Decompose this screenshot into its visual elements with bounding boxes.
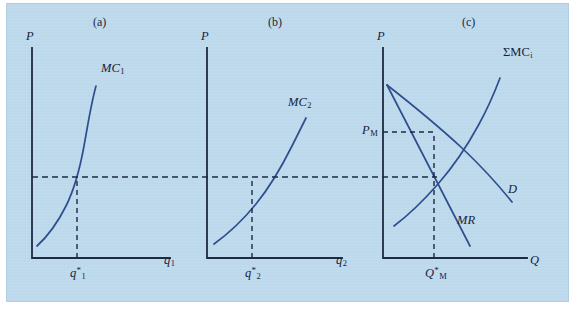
curve-mc2: [214, 118, 306, 244]
panel-c-pm-sub: M: [370, 128, 378, 138]
panel-b-x-axis-label-text: q: [336, 253, 342, 267]
panel-b-x-axis-label: q2: [336, 254, 347, 268]
panel-a-axis-lines: [32, 48, 170, 258]
panel-b-y-axis-label: P: [201, 30, 209, 43]
panel-c-qstar-label: Q*M: [425, 266, 447, 281]
panel-b-qstar-sup: *: [252, 265, 257, 275]
panel-a-y-axis-label: P: [26, 30, 34, 43]
panel-a-qstar-text: q: [70, 266, 76, 280]
panel-c-pm-label: PM: [362, 124, 378, 138]
panel-a-qstar-sub: 1: [82, 271, 86, 281]
panel-a-x-axis-label-text: q: [164, 253, 170, 267]
panel-c-qstar-sub: M: [439, 271, 447, 281]
panel-c-curve-label-text: ΣMC: [503, 45, 530, 59]
panel-c-marginal-revenue-label: MR: [457, 214, 475, 227]
panel-b-curve-label-text: MC: [288, 95, 307, 109]
panel-c-axes: [383, 48, 527, 258]
panel-a-curve-label-text: MC: [101, 61, 120, 75]
panel-b-axis-lines: [207, 48, 342, 258]
panel-c-x-axis-label-text: Q: [530, 253, 539, 267]
panel-c-demand-label: D: [508, 183, 517, 196]
panel-tag-c: (c): [462, 15, 475, 30]
panel-c-y-axis-label: P: [377, 30, 385, 43]
panel-a-x-axis-label: q1: [164, 254, 175, 268]
figure-canvas: [0, 0, 577, 309]
panel-a-curve-label: MC1: [101, 62, 125, 76]
panel-b-curve-label: MC2: [288, 96, 312, 110]
panel-c-curve-label: ΣMCi: [503, 46, 533, 60]
curve-mc1: [37, 86, 96, 246]
panel-a-qstar-label: q*1: [70, 266, 86, 281]
panel-b-qstar-sub: 2: [257, 271, 261, 281]
panel-b-x-axis-label-sub: 2: [343, 258, 347, 268]
panel-c-qstar-text: Q: [425, 266, 434, 280]
panel-c-axis-lines: [383, 48, 527, 258]
panel-a-axes: [32, 48, 170, 258]
figure-root: (a) (b) (c) P MC1 q1 q*1 P MC2 q2 q*2 P …: [0, 0, 577, 309]
panel-a-curve-label-sub: 1: [120, 66, 124, 76]
curve-demand: [387, 85, 512, 202]
panel-b-curve-label-sub: 2: [307, 100, 311, 110]
panel-tag-b: (b): [268, 15, 282, 30]
panel-a-x-axis-label-sub: 1: [171, 258, 175, 268]
panel-c-pm-text: P: [362, 123, 370, 137]
panel-tag-a: (a): [93, 15, 106, 30]
panel-c-x-axis-label: Q: [530, 254, 539, 267]
panel-b-qstar-text: q: [245, 266, 251, 280]
panel-a-qstar-sup: *: [77, 265, 82, 275]
curve-sum-mc: [394, 78, 500, 226]
panel-b-qstar-label: q*2: [245, 266, 261, 281]
panel-b-axes: [207, 48, 342, 258]
panel-c-curve-label-sub: i: [530, 50, 532, 60]
